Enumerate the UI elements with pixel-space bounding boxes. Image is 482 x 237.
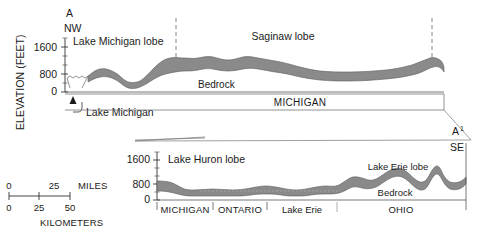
scale-km-tick-25: 25 xyxy=(34,202,45,213)
label-lake-michigan-lobe: Lake Michigan lobe xyxy=(73,35,164,47)
upper-ytick-1600: 1600 xyxy=(34,41,58,53)
upper-ytick-800: 800 xyxy=(39,68,57,80)
upper-ytick-0: 0 xyxy=(51,85,57,97)
elevation-axis-label-group: ELEVATION (FEET) xyxy=(14,34,26,130)
expansion-connector xyxy=(135,110,471,141)
lower-bedrock-label: Bedrock xyxy=(378,187,413,198)
cross-section-figure: ELEVATION (FEET) 1600 800 0 A NW xyxy=(0,0,482,237)
lower-region-label-ohio: OHIO xyxy=(388,204,413,215)
upper-drift-layer xyxy=(88,57,444,89)
upper-region-label-michigan: MICHIGAN xyxy=(274,97,326,108)
lower-ytick-800: 800 xyxy=(132,178,150,190)
label-saginaw-lobe: Saginaw lobe xyxy=(251,30,314,42)
cross-section-svg: ELEVATION (FEET) 1600 800 0 A NW xyxy=(0,0,482,237)
lower-endpoint-label-a: A xyxy=(452,125,459,137)
lower-ytick-0: 0 xyxy=(144,193,150,205)
scale-bar: 0 25 MILES 0 25 50 KILOMETERS xyxy=(6,180,107,228)
lower-region-label-michigan: MICHIGAN xyxy=(160,204,209,215)
upper-endpoint-label-a: A xyxy=(66,7,73,19)
connector-taper xyxy=(135,140,471,141)
label-lake-huron-lobe: Lake Huron lobe xyxy=(168,153,245,165)
lower-direction-label-se: SE xyxy=(450,141,464,153)
lower-region-label-lake-erie: Lake Erie xyxy=(282,204,322,215)
scale-km-tick-50: 50 xyxy=(65,202,76,213)
scale-miles-label: MILES xyxy=(78,180,108,191)
lower-endpoint-superscript: 1 xyxy=(460,125,464,132)
scale-km-tick-0: 0 xyxy=(6,202,11,213)
scale-miles-tick-0: 0 xyxy=(6,180,11,191)
elevation-axis-label: ELEVATION (FEET) xyxy=(14,34,26,130)
label-lake-erie-lobe: Lake Erie lobe xyxy=(368,161,429,172)
upper-bedrock-label: Bedrock xyxy=(198,79,236,90)
upper-section: 1600 800 0 A NW xyxy=(34,7,444,118)
scale-kilometers-label: KILOMETERS xyxy=(40,217,103,228)
label-lake-michigan: Lake Michigan xyxy=(86,106,154,118)
lake-michigan-arrow-icon xyxy=(70,96,77,104)
upper-direction-label-nw: NW xyxy=(64,22,82,34)
lake-michigan-water-symbol xyxy=(67,76,88,78)
scale-miles-tick-25: 25 xyxy=(49,180,60,191)
lower-region-label-ontario: ONTARIO xyxy=(218,204,262,215)
lower-ytick-1600: 1600 xyxy=(127,153,151,165)
connector-diagonal xyxy=(135,137,205,141)
